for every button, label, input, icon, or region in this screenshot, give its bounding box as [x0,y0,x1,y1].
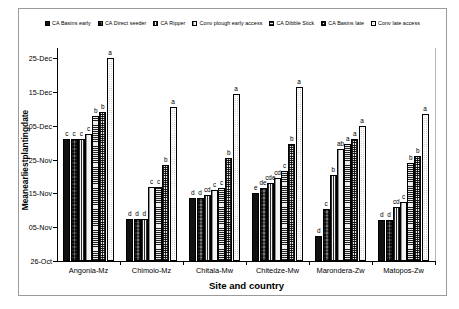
bar-significance-letter: c [150,178,153,185]
bar [378,220,385,261]
legend-label: Conv plough early access [199,20,262,26]
bar [85,134,92,261]
bar [99,112,106,261]
bar-significance-letter: c [87,125,90,132]
y-axis-tick-mark [53,58,57,59]
y-axis-tick-mark [53,126,57,127]
bar-significance-letter: b [290,135,294,142]
plot-area [57,48,435,261]
bar-significance-letter: b [332,166,336,173]
bar-significance-letter: ab [337,140,344,147]
y-axis-tick-mark [53,193,57,194]
bar-significance-letter: a [171,98,175,105]
legend-item[interactable]: CA Direct seeder [98,20,147,26]
bar-significance-letter: a [346,135,350,142]
bar [330,175,337,261]
bar-significance-letter: cd [393,198,400,205]
legend-swatch-icon [269,21,274,26]
y-axis-title: Meanearliestplantingdate [20,65,30,255]
bar [134,219,141,261]
bar [63,139,70,261]
legend-item[interactable]: CA Basins late [321,20,364,26]
y-axis-tick-mark [53,92,57,93]
bar [92,116,99,261]
bar-significance-letter: d [135,210,139,217]
legend-swatch-icon [321,21,326,26]
bar-significance-letter: cd [274,169,281,176]
bar-significance-letter: a [108,49,112,56]
bar [252,193,259,261]
bar-significance-letter: b [164,156,168,163]
y-axis-tick-label: 15-Nov [29,189,52,198]
bar-significance-letter: c [157,178,160,185]
bar [218,188,225,261]
bar [288,144,295,261]
x-axis-tick-label: Angonia-Mz [69,266,108,275]
bar [141,219,148,261]
legend-label: CA Basins early [52,20,91,26]
bar [274,178,281,261]
bar [296,87,303,261]
x-axis-tick-mark [246,262,247,265]
legend-label: Conv late access [378,20,420,26]
bar [315,236,322,261]
bar [107,58,114,261]
bar [204,195,211,261]
y-axis-tick-mark [53,227,57,228]
bar [155,187,162,261]
bar-significance-letter: c [220,179,223,186]
bar-significance-letter: d [143,210,147,217]
x-axis-title: Site and country [57,280,436,291]
x-axis-tick-mark [120,262,121,265]
bar [359,126,366,261]
bar-significance-letter: d [317,227,321,234]
legend-item[interactable]: CA Ripper [153,20,185,26]
y-axis-tick-mark [53,261,57,262]
y-axis-tick-label: 05-Dec [29,121,52,130]
bar [400,202,407,261]
bar [407,163,414,261]
x-axis-tick-label: Chimoio-Mz [132,266,171,275]
bar-significance-letter: b [94,107,98,114]
bar-significance-letter: a [360,117,364,124]
bar-significance-letter: c [80,130,83,137]
bar-significance-letter: b [227,149,231,156]
bar-significance-letter: d [191,189,195,196]
bar-significance-letter: a [297,78,301,85]
bar [78,139,85,261]
bar [162,165,169,261]
bar-significance-letter: d [387,211,391,218]
bar [323,209,330,261]
bar [414,156,421,261]
legend-label: CA Ripper [160,20,185,26]
bar [211,190,218,261]
bar [225,158,232,261]
bar-significance-letter: a [234,85,238,92]
legend-label: CA Basins late [328,20,364,26]
bar-significance-letter: cd [204,186,211,193]
legend-item[interactable]: Conv late access [371,20,420,26]
legend-swatch-icon [192,21,197,26]
bar [189,198,196,261]
bar-significance-letter: a [353,130,357,137]
bar [233,94,240,261]
bar [422,114,429,261]
bar-significance-letter: c [65,130,68,137]
y-axis-tick-label: 25-Nov [29,155,52,164]
bar-significance-letter: d [198,189,202,196]
legend-item[interactable]: Conv plough early access [192,20,262,26]
x-axis-tick-label: Chitala-Mw [196,266,233,275]
legend-label: CA Direct seeder [105,20,147,26]
bar-significance-letter: b [101,103,105,110]
bar-significance-letter: c [283,162,286,169]
bar-significance-letter: d [380,211,384,218]
bar-significance-letter: c [213,181,216,188]
legend-swatch-icon [98,21,103,26]
x-axis-tick-label: Chitedze-Mw [256,266,299,275]
legend-swatch-icon [153,21,158,26]
x-axis-tick-mark [372,262,373,265]
chart-legend: CA Basins earlyCA Direct seederCA Ripper… [19,9,446,37]
legend-item[interactable]: CA Dibble Stick [269,20,314,26]
bar-significance-letter: b [409,154,413,161]
y-axis-tick-label: 25-Dec [29,54,52,63]
